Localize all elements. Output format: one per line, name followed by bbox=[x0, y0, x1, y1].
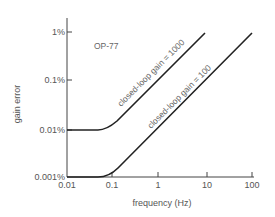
x-tick-100: 100 bbox=[244, 180, 259, 190]
y-axis-label: gain error bbox=[12, 85, 22, 124]
x-tick-1: 1 bbox=[155, 180, 160, 190]
y-tick-0.1pct: 0.1% bbox=[44, 75, 65, 85]
series-gain-100 bbox=[67, 33, 252, 177]
gain-error-chart: 1% 0.1% 0.01% 0.001% 0.01 0.1 1 10 100 f… bbox=[0, 0, 275, 217]
x-tick-10: 10 bbox=[202, 180, 212, 190]
x-tick-0.1: 0.1 bbox=[106, 180, 119, 190]
x-axis-label: frequency (Hz) bbox=[132, 198, 191, 208]
x-tick-0.01: 0.01 bbox=[58, 180, 76, 190]
y-tick-0.01pct: 0.01% bbox=[39, 125, 65, 135]
y-tick-1pct: 1% bbox=[52, 27, 65, 37]
chart-title: OP-77 bbox=[94, 41, 119, 51]
